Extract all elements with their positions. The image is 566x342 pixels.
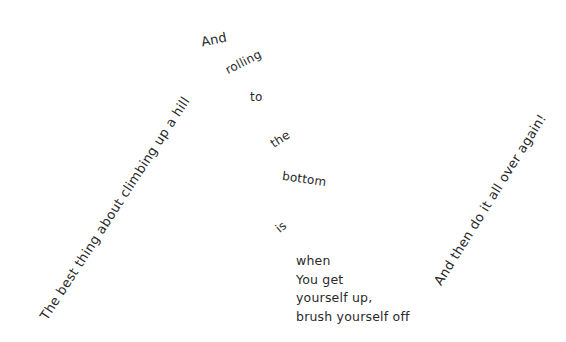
poem-stanza: when You get yourself up, brush yourself… bbox=[296, 252, 410, 326]
stanza-line-1: when bbox=[296, 252, 410, 271]
cascade-word-the: the bbox=[268, 128, 292, 149]
cascade-word-is: is bbox=[273, 219, 288, 235]
stanza-line-2: You get bbox=[296, 271, 410, 290]
poem-right-diagonal-line: And then do it all over again! bbox=[429, 107, 551, 292]
cascade-word-and: And bbox=[200, 30, 228, 48]
cascade-word-rolling: rolling bbox=[223, 48, 263, 76]
poem-left-diagonal-line: The best thing about climbing up a hill bbox=[38, 97, 191, 322]
stanza-line-4: brush yourself off bbox=[296, 308, 410, 327]
cascade-word-bottom: bottom bbox=[281, 170, 327, 188]
cascade-word-to: to bbox=[250, 91, 262, 103]
stanza-line-3: yourself up, bbox=[296, 289, 410, 308]
